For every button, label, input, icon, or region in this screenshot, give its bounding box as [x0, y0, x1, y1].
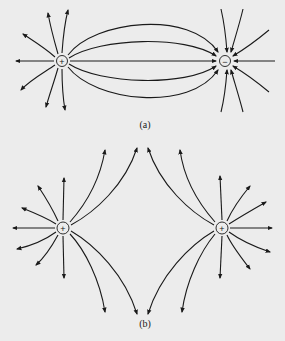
svg-text:+: +: [59, 57, 64, 67]
positive-charge-b-left: +: [57, 222, 69, 234]
panel-label-a: (a): [139, 119, 150, 131]
svg-text:+: +: [60, 224, 65, 234]
field-lines-right-positive: [148, 148, 272, 314]
positive-charge-a: +: [57, 56, 68, 67]
negative-charge-a: −: [220, 56, 231, 67]
electric-field-diagram: + − (a): [0, 0, 285, 341]
field-lines-between-charges: [68, 24, 218, 97]
panel-label-b: (b): [139, 318, 151, 330]
field-lines-left-positive: [13, 148, 137, 314]
panel-a: + − (a): [16, 9, 275, 131]
svg-text:+: +: [219, 224, 224, 234]
positive-charge-b-right: +: [216, 222, 228, 234]
svg-text:−: −: [222, 57, 227, 67]
panel-b: + + (b): [13, 148, 272, 330]
